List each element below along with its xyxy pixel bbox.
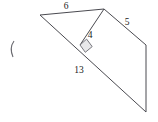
figure-root: 6 5 4 13 [0,0,158,122]
segment-hypotenuse-13 [40,15,146,112]
label-13: 13 [74,65,84,75]
label-5: 5 [125,17,130,27]
label-6: 6 [64,1,69,11]
paren-tick-icon [11,41,14,57]
geometry-figure: 6 5 4 13 [0,0,158,122]
segment-side-5 [104,9,146,45]
label-4: 4 [88,30,93,40]
right-angle-icon [80,39,92,52]
segment-top-side-6 [40,9,104,15]
